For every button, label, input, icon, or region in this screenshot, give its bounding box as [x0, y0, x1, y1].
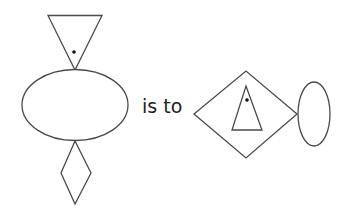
connector-text: is to	[142, 95, 182, 117]
triangle-dot	[72, 50, 76, 54]
vertical-diamond	[61, 141, 91, 204]
inner-triangle-dot	[245, 98, 249, 102]
inverted-triangle	[48, 16, 102, 71]
analogy-diagram: is to	[0, 0, 354, 216]
horizontal-ellipse	[22, 70, 128, 141]
left-figure	[22, 16, 128, 205]
vertical-ellipse	[298, 82, 330, 146]
right-figure	[194, 71, 330, 158]
